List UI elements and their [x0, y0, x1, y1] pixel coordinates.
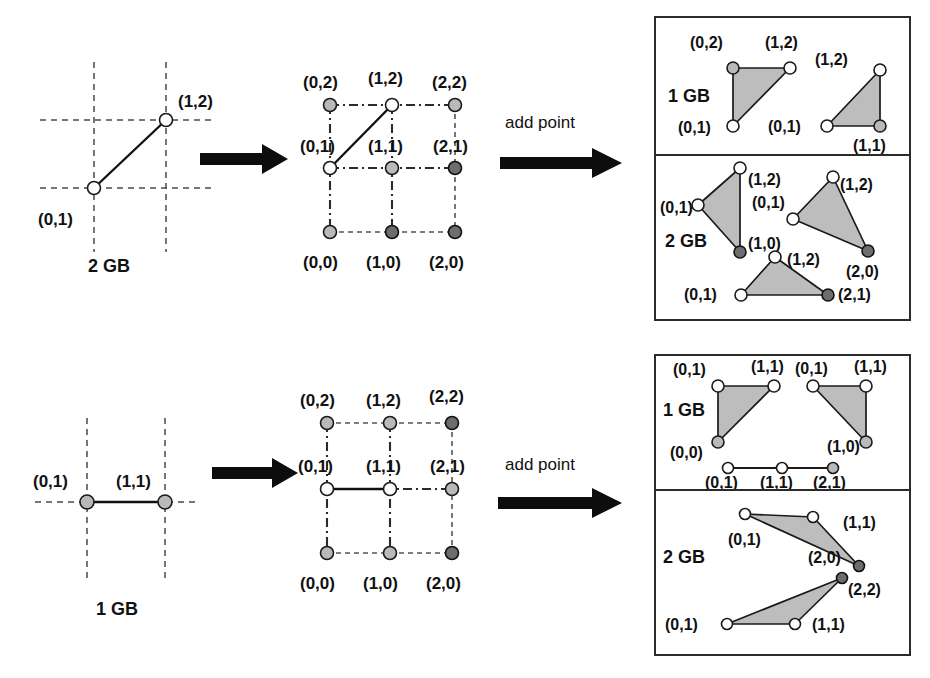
label-point-1-2: (1,2) — [748, 171, 781, 188]
triangle-shape — [718, 386, 774, 442]
node-0-1 — [821, 120, 833, 132]
label-point-0-1: (0,1) — [298, 457, 333, 476]
label-point-2-1: (2,1) — [813, 474, 846, 491]
node-1-1 — [808, 512, 819, 523]
node-0-1 — [692, 199, 704, 211]
node-1-2 — [734, 162, 746, 174]
label-point-2-1: (2,1) — [433, 137, 468, 156]
node-1-2 — [784, 62, 796, 74]
label-point-0-1: (0,1) — [684, 286, 717, 303]
node-1-0 — [734, 246, 746, 258]
triangle-shape — [745, 514, 859, 566]
node-1-0 — [860, 436, 872, 448]
node-2-0 — [862, 245, 874, 257]
caption-top-left: 2 GB — [88, 256, 130, 276]
node-0-1 — [321, 483, 334, 496]
node-0-1 — [722, 619, 733, 630]
node-1-2 — [384, 417, 397, 430]
node-0-0 — [321, 547, 334, 560]
node-1-1 — [768, 380, 780, 392]
bottom-left-input-panel: (0,1) (1,1) 1 GB — [33, 418, 200, 619]
node-0-0 — [324, 226, 337, 239]
label-point-1-1: (1,1) — [853, 137, 886, 154]
node-1-1 — [386, 162, 399, 175]
node-0-1 — [324, 162, 337, 175]
label-point-1-1: (1,1) — [854, 358, 887, 375]
node-0-1 — [723, 463, 734, 474]
caption-1gb: 1 GB — [668, 86, 710, 106]
node-0-2 — [321, 417, 334, 430]
edge-01-12 — [94, 120, 166, 188]
label-point-1-1: (1,1) — [751, 358, 784, 375]
node-0-1 — [88, 182, 101, 195]
label-point-0-1: (0,1) — [665, 616, 698, 633]
label-point-0-2: (0,2) — [303, 73, 338, 92]
label-point-1-0: (1,0) — [827, 438, 860, 455]
caption-2gb: 2 GB — [665, 231, 707, 251]
node-0-1 — [727, 120, 739, 132]
label-point-0-1: (0,1) — [705, 474, 738, 491]
label-point-0-2: (0,2) — [690, 34, 723, 51]
caption-bottom-left: 1 GB — [96, 599, 138, 619]
node-1-2 — [386, 99, 399, 112]
label-point-1-1: (1,1) — [843, 514, 876, 531]
node-0-2 — [727, 62, 739, 74]
label-point-1-2: (1,2) — [368, 69, 403, 88]
label-point-0-2: (0,2) — [300, 391, 335, 410]
label-point-2-0: (2,0) — [429, 253, 464, 272]
label-point-2-2: (2,2) — [429, 387, 464, 406]
label-point-1-0: (1,0) — [363, 574, 398, 593]
label-point-2-1: (2,1) — [430, 457, 465, 476]
label-point-2-0: (2,0) — [808, 549, 841, 566]
node-1-2 — [827, 171, 839, 183]
label-point-0-1: (0,1) — [33, 472, 68, 491]
label-point-0-1: (0,1) — [678, 119, 711, 136]
label-point-1-1: (1,1) — [366, 457, 401, 476]
arrow-right-icon — [498, 488, 622, 518]
label-point-1-2: (1,2) — [366, 391, 401, 410]
node-2-2 — [446, 417, 459, 430]
top-left-input-panel: (1,2) (0,1) 2 GB — [38, 62, 213, 276]
node-1-1 — [860, 380, 872, 392]
label-point-0-1: (0,1) — [752, 194, 785, 211]
label-point-0-1: (0,1) — [768, 118, 801, 135]
node-2-2 — [837, 573, 848, 584]
node-2-1 — [446, 483, 459, 496]
label-point-0-0: (0,0) — [670, 444, 703, 461]
label-point-0-0: (0,0) — [303, 253, 338, 272]
node-1-1 — [158, 495, 172, 509]
label-point-0-1: (0,1) — [673, 361, 706, 378]
transition-label-bottom: add point — [505, 455, 575, 474]
arrow-right-icon — [500, 148, 622, 178]
label-point-0-0: (0,0) — [300, 574, 335, 593]
node-2-0 — [854, 561, 865, 572]
arrow-right-icon — [200, 144, 288, 174]
label-point-1-2: (1,2) — [765, 34, 798, 51]
node-2-2 — [449, 99, 462, 112]
node-0-1 — [80, 495, 94, 509]
node-0-1 — [712, 380, 724, 392]
label-point-2-0: (2,0) — [846, 263, 879, 280]
bottom-result-panel-1gb: 1 GB (0,1) (1,1) (0,0) (0,1) (1,1) (1,0)… — [655, 355, 910, 491]
label-point-0-1: (0,1) — [728, 531, 761, 548]
label-point-0-1: (0,1) — [38, 210, 73, 229]
label-point-1-2: (1,2) — [787, 251, 820, 268]
bottom-arrow-1 — [212, 458, 298, 488]
label-point-0-1: (0,1) — [795, 360, 828, 377]
label-point-2-1: (2,1) — [838, 286, 871, 303]
bottom-result-panel-2gb: 2 GB (0,1) (1,1) (2,0) (0,1) (1,1) (2,2) — [655, 490, 910, 655]
triangle-shape — [813, 386, 866, 442]
transition-label-top: add point — [505, 113, 575, 132]
label-point-1-0: (1,0) — [748, 235, 781, 252]
node-1-1 — [384, 483, 397, 496]
label-point-2-2: (2,2) — [848, 581, 881, 598]
node-0-1 — [735, 289, 747, 301]
top-arrow-2-group: add point — [500, 113, 622, 178]
node-1-1 — [790, 619, 801, 630]
top-result-panel-2gb: 2 GB (1,2) (0,1) (1,0) (1,2) (0,1) (2,0)… — [655, 155, 910, 320]
diagram-canvas: (1,2) (0,1) 2 GB — [0, 0, 930, 678]
label-point-2-2: (2,2) — [432, 73, 467, 92]
label-point-1-1: (1,1) — [760, 474, 793, 491]
node-0-2 — [324, 99, 337, 112]
node-1-2 — [874, 64, 886, 76]
